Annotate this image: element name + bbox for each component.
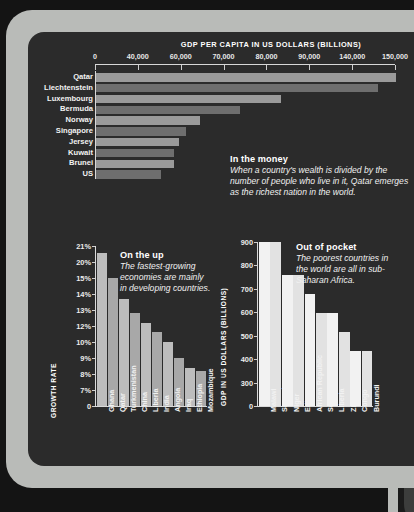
top-chart-tick-label: 0 [93, 52, 97, 61]
x-axis-label: Turkmenistan [129, 365, 138, 412]
y-tick-label: 0 [226, 402, 253, 411]
y-tick-label: 0 [60, 402, 91, 411]
top-chart-bar [96, 116, 200, 124]
top-chart-row-label: Kuwait [28, 148, 93, 158]
chart-bar [119, 299, 129, 406]
y-tick-label: 10% [60, 338, 91, 347]
top-chart-row-label: Liechtenstein [28, 83, 93, 93]
x-axis-label: Eritrea [303, 389, 312, 412]
x-axis-label: Zimbabwe [349, 377, 358, 412]
y-tick-label: 21% [60, 242, 91, 251]
top-chart-bar [96, 106, 240, 114]
x-axis-label: Liberia [337, 388, 346, 412]
x-axis-label: Mozambique [206, 368, 215, 412]
growth-rate-axis-title: GROWTH RATE [50, 363, 57, 418]
x-axis-label: Burundi [372, 384, 381, 412]
infographic-canvas: GDP PER CAPITA IN US DOLLARS (BILLIONS) … [28, 28, 414, 452]
top-chart-bar [96, 170, 161, 178]
top-chart-tick-label: 60,000 [170, 52, 192, 61]
top-chart-row: Luxembourg [28, 94, 414, 105]
callout-out-of-pocket-body: The poorest countries in the world are a… [296, 253, 402, 287]
top-chart-row: Norway [28, 115, 414, 126]
x-axis-label: African Republic [315, 355, 324, 412]
y-tick-label: 800 [226, 261, 253, 270]
top-chart-row-label: Bermuda [28, 104, 93, 114]
y-tick-label: 700 [226, 284, 253, 293]
chart-bar [259, 242, 270, 406]
callout-on-the-up: On the up The fastest-growing economies … [120, 250, 212, 295]
top-chart-tick-label: 40,000 [127, 52, 149, 61]
top-chart-tick-mark [138, 65, 139, 70]
chart-bar [108, 278, 118, 406]
top-chart-row-label: Brunei [28, 158, 93, 168]
x-axis-label: Somalia [326, 384, 335, 412]
x-axis-label: Malawi [269, 388, 278, 412]
chart-bar [293, 275, 304, 406]
y-tick-label: 15% [60, 274, 91, 283]
x-axis-label: Niger [292, 394, 301, 412]
x-axis-label: Congo [360, 389, 369, 412]
y-tick-label: 12% [60, 322, 91, 331]
chart-bar [97, 253, 107, 406]
x-axis-label: Sierra Leone [280, 368, 289, 412]
y-tick-label: 13% [60, 306, 91, 315]
callout-on-the-up-heading: On the up [120, 250, 212, 260]
top-chart-row-label: Jersey [28, 137, 93, 147]
top-chart-tick-mark [352, 65, 353, 70]
y-tick-label: 8% [60, 370, 91, 379]
top-chart-row: Liechtenstein [28, 83, 414, 94]
top-chart-tick-label: 140,000 [339, 52, 365, 61]
top-chart-bar [96, 95, 281, 103]
top-chart-row: Jersey [28, 137, 414, 148]
y-tick-label: 500 [226, 331, 253, 340]
top-chart-row-label: Singapore [28, 126, 93, 136]
x-axis-label: Liberia [151, 388, 160, 412]
y-tick-label: 900 [226, 238, 253, 247]
x-axis-label: China [140, 392, 149, 412]
y-tick-label: 14% [60, 290, 91, 299]
callout-in-the-money-body: When a country's wealth is divided by th… [230, 165, 410, 199]
y-tick-label: 20% [60, 258, 91, 267]
callout-on-the-up-body: The fastest-growing economies are mainly… [120, 261, 212, 295]
top-chart-row: Bermuda [28, 104, 414, 115]
top-chart-tick-mark [395, 65, 396, 70]
top-chart-tick-label: 80,000 [255, 52, 277, 61]
y-tick-label: 400 [226, 355, 253, 364]
y-tick-label: 300 [226, 378, 253, 387]
callout-out-of-pocket-heading: Out of pocket [296, 242, 402, 252]
top-chart-tick-label: 70,000 [213, 52, 235, 61]
y-tick-label: 9% [60, 354, 91, 363]
infographic-screen: GDP PER CAPITA IN US DOLLARS (BILLIONS) … [0, 0, 414, 512]
top-chart-tick-labels: 040,00060,00070,00080,00090,000140,00015… [28, 52, 414, 64]
top-chart-tick-mark [224, 65, 225, 70]
top-chart-bar [96, 127, 186, 135]
top-chart-row: Singapore [28, 126, 414, 137]
x-axis-label: Qatar [118, 393, 127, 412]
top-chart-tick-marks [28, 65, 414, 71]
x-axis-label: Ghana [107, 390, 116, 412]
top-chart-tick-label: 90,000 [298, 52, 320, 61]
top-chart-row-label: US [28, 169, 93, 179]
callout-in-the-money-heading: In the money [230, 154, 410, 164]
top-chart-tick-mark [266, 65, 267, 70]
top-chart-row-label: Qatar [28, 72, 93, 82]
x-axis-label: India [162, 395, 171, 412]
top-chart-row-label: Norway [28, 115, 93, 125]
top-chart-tick-mark [309, 65, 310, 70]
callout-out-of-pocket: Out of pocket The poorest countries in t… [296, 242, 402, 287]
top-chart-title: GDP PER CAPITA IN US DOLLARS (BILLIONS) [126, 40, 414, 49]
x-axis-label: Angola [173, 388, 182, 412]
top-chart-bar [96, 73, 396, 81]
x-axis-label: Iraq [184, 399, 193, 412]
poorest-countries-axis-title: GDP IN US DOLLARS (BILLIONS) [220, 288, 227, 406]
top-chart-tick-mark [181, 65, 182, 70]
top-chart-row-label: Luxembourg [28, 94, 93, 104]
top-chart-tick-label: 150,000 [382, 52, 408, 61]
y-tick-label: 600 [226, 308, 253, 317]
top-chart-bar [96, 160, 174, 168]
top-chart-bar [96, 138, 179, 146]
y-tick-label: 7% [60, 386, 91, 395]
top-chart-row: Qatar [28, 72, 414, 83]
top-chart-bar [96, 84, 378, 92]
callout-in-the-money: In the money When a country's wealth is … [230, 154, 410, 199]
